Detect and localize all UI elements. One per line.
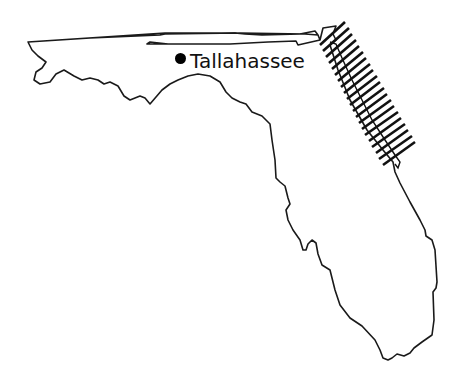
tallahassee-marker-icon xyxy=(175,53,186,64)
city-label-tallahassee: Tallahassee xyxy=(190,49,305,73)
